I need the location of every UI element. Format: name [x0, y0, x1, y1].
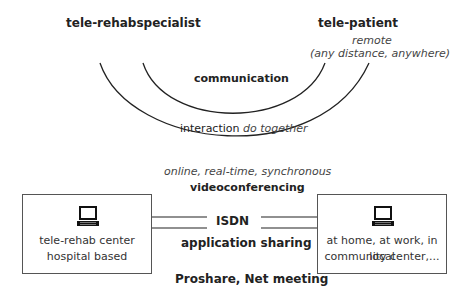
inner-arc [143, 63, 325, 113]
connection-mode: online, real-time, synchronous [164, 165, 331, 178]
isdn-label: ISDN [216, 214, 249, 228]
laptop-icon [76, 205, 100, 227]
left-box-line2: hospital based [23, 249, 151, 265]
communication-label: communication [194, 72, 289, 85]
specialist-label: tele-rehabspecialist [66, 16, 201, 30]
left-box-line1: tele-rehab center [23, 233, 151, 249]
interaction-text: interaction [180, 122, 240, 135]
software-label: Proshare, Net meeting [175, 272, 328, 286]
patient-label: tele-patient [318, 16, 398, 30]
laptop-icon [371, 205, 395, 227]
right-box-line2: community center,... [318, 249, 446, 265]
right-location-box: at home, at work, in local community cen… [317, 194, 447, 274]
interaction-label: interaction do together [180, 122, 308, 135]
left-location-box: tele-rehab center hospital based [22, 194, 152, 274]
interaction-italic-text: do together [243, 122, 308, 135]
connection-method: videoconferencing [190, 181, 305, 194]
application-sharing-label: application sharing [181, 236, 311, 250]
patient-remote-note: remote [352, 34, 392, 47]
patient-distance-note: (any distance, anywhere) [310, 47, 450, 60]
